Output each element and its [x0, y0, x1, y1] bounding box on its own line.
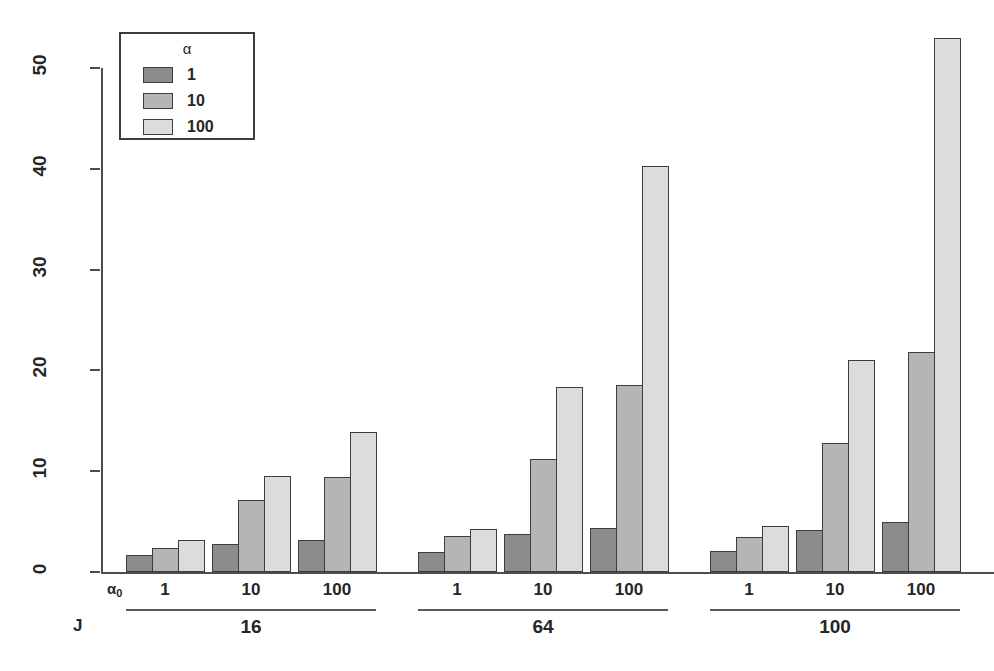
y-axis-line [101, 68, 103, 573]
bar [736, 537, 763, 572]
legend-swatch [143, 93, 173, 109]
bar [710, 551, 737, 572]
bar [642, 166, 669, 572]
bar [556, 387, 583, 572]
x-group-label: 1 [418, 580, 496, 600]
y-tick-label: 0 [29, 546, 51, 592]
legend-label: 10 [187, 90, 205, 112]
panel-rule [126, 609, 376, 611]
y-tick-mark [90, 269, 100, 271]
x-group-label: 100 [590, 580, 668, 600]
x-group-label: 100 [882, 580, 960, 600]
x-group-label: 1 [710, 580, 788, 600]
bar [298, 540, 325, 572]
x-group-label: 10 [796, 580, 874, 600]
y-tick-mark [90, 67, 100, 69]
bar [848, 360, 875, 572]
legend-swatch [143, 67, 173, 83]
legend-box: α 110100 [119, 32, 255, 140]
legend-entry: 1 [143, 64, 247, 86]
bar [908, 352, 935, 572]
legend-title: α [121, 40, 253, 57]
x-group-label: 10 [504, 580, 582, 600]
bar [418, 552, 445, 572]
y-tick-mark [90, 571, 100, 573]
bar [796, 530, 823, 572]
x-group-label: 10 [212, 580, 290, 600]
y-tick-label: 50 [29, 42, 51, 88]
x-group-label: 100 [298, 580, 376, 600]
panel-label: 16 [126, 616, 376, 638]
bar [530, 459, 557, 572]
bar [822, 443, 849, 572]
bar [350, 432, 377, 572]
bar [934, 38, 961, 572]
bar [882, 522, 909, 572]
x-axis-line [101, 572, 994, 574]
panel-rule [418, 609, 668, 611]
x-group-label: 1 [126, 580, 204, 600]
bar [264, 476, 291, 572]
bar [504, 534, 531, 572]
bar [444, 536, 471, 572]
bar [616, 385, 643, 572]
legend-label: 1 [187, 64, 196, 86]
legend-entry: 100 [143, 116, 247, 138]
x-axis-panel-axis-name: J [73, 616, 82, 636]
panel-label: 100 [710, 616, 960, 638]
bar [590, 528, 617, 572]
panel-rule [710, 609, 960, 611]
bar [238, 500, 265, 572]
y-tick-mark [90, 470, 100, 472]
bar [470, 529, 497, 572]
y-tick-mark [90, 168, 100, 170]
panel-label: 64 [418, 616, 668, 638]
x-axis-group-axis-name: α0 [107, 580, 122, 597]
bar [178, 540, 205, 572]
y-tick-label: 10 [29, 445, 51, 491]
y-tick-label: 30 [29, 244, 51, 290]
legend-entry: 10 [143, 90, 247, 112]
legend-label: 100 [187, 116, 214, 138]
y-tick-label: 20 [29, 344, 51, 390]
bar [126, 555, 153, 572]
bar [152, 548, 179, 572]
y-tick-label: 40 [29, 143, 51, 189]
bar [762, 526, 789, 572]
y-tick-mark [90, 369, 100, 371]
bar [212, 544, 239, 572]
legend-swatch [143, 119, 173, 135]
bar [324, 477, 351, 572]
